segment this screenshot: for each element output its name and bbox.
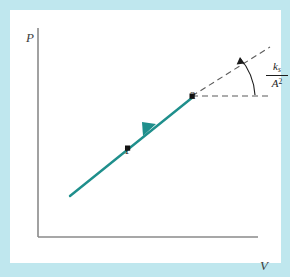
process-line [70, 97, 193, 196]
dashed-extension-line [192, 47, 270, 96]
plot-canvas [10, 10, 281, 263]
slope-annotation: ks A2 [260, 60, 290, 90]
state-2-label: 2 [190, 90, 196, 101]
plot-panel: P V 1 2 ks A2 [10, 10, 281, 263]
slope-numerator: ks [260, 60, 290, 74]
slope-denominator: A2 [260, 77, 290, 90]
y-axis-label: P [26, 31, 34, 44]
slope-numerator-subscript: s [278, 65, 281, 74]
slope-denominator-exponent: 2 [278, 77, 282, 86]
state-1-label: 1 [124, 145, 130, 156]
angle-arc-arrowhead [237, 57, 245, 65]
x-axis-label: V [260, 259, 268, 272]
pv-diagram-figure: P V 1 2 ks A2 [0, 0, 290, 277]
